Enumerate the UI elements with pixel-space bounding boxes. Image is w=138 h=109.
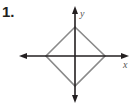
y-axis-top-arrow-icon bbox=[72, 6, 78, 14]
coordinate-diagram: y x bbox=[0, 0, 138, 109]
x-axis-left-arrow-icon bbox=[19, 53, 27, 59]
y-axis-bottom-arrow-icon bbox=[72, 95, 78, 103]
x-axis-label: x bbox=[122, 59, 128, 70]
y-axis-label: y bbox=[79, 8, 85, 19]
